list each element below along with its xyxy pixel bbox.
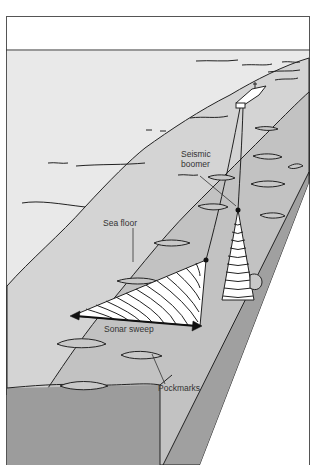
cross-section-front <box>7 385 160 465</box>
label-seismic-boomer-2: boomer <box>181 159 210 169</box>
label-seismic-boomer-1: Seismic <box>181 149 212 159</box>
label-pockmarks: Pockmarks <box>158 383 200 393</box>
label-sonar-sweep: Sonar sweep <box>104 324 154 334</box>
seabed-survey-diagram: Seismic boomer Sea floor Sonar sweep Poc… <box>0 0 324 465</box>
label-sea-floor: Sea floor <box>103 218 137 228</box>
pockmark-in-cone <box>250 274 262 290</box>
